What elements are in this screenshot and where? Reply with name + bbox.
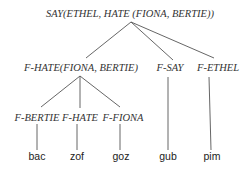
root-node-label: SAY(ETHEL, HATE (FIONA, BERTIE)) — [46, 8, 214, 20]
node-f-say: F-SAY — [156, 62, 185, 73]
leaf-goz: goz — [113, 150, 130, 162]
leaf-gub: gub — [159, 150, 177, 162]
node-f-ethel: F-ETHEL — [196, 62, 239, 73]
leaf-pim: pim — [204, 150, 221, 162]
edge-fethel-pim — [209, 77, 211, 150]
node-f-hate-fiona-bertie: F-HATE(FIONA, BERTIE) — [23, 62, 138, 74]
syntax-tree-diagram: SAY(ETHEL, HATE (FIONA, BERTIE)) F-HATE(… — [0, 0, 249, 171]
edge-root-fsay — [131, 22, 173, 60]
leaf-zof: zof — [70, 150, 84, 162]
leaf-bac: bac — [29, 150, 46, 162]
edge-fhate-fbertie — [41, 76, 80, 107]
edge-fhate-ffiona — [80, 76, 120, 107]
node-f-hate: F-HATE — [61, 112, 98, 123]
node-f-bertie: F-BERTIE — [14, 112, 60, 123]
node-f-fiona: F-FIONA — [102, 112, 144, 123]
edge-root-fethel — [131, 22, 214, 58]
tree-svg: SAY(ETHEL, HATE (FIONA, BERTIE)) F-HATE(… — [0, 0, 249, 171]
edge-root-fhate — [86, 22, 131, 58]
